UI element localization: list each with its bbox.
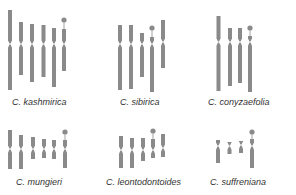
karyotype-mungieri [8, 129, 68, 169]
chromosome [129, 25, 133, 89]
species-label-kashmirica: C. kashmirica [12, 97, 67, 107]
species-label-sibirica: C. sibirica [120, 97, 160, 107]
satellite-icon [247, 25, 252, 30]
chromosome [161, 20, 165, 68]
chromosome [30, 24, 34, 82]
species-label-conyzaefolia: C. conyzaefolia [208, 97, 270, 107]
chromosome [8, 10, 12, 90]
chromosome [149, 25, 154, 92]
chromosome [52, 140, 56, 159]
chromosome [141, 138, 145, 161]
chromosome [19, 135, 23, 169]
species-label-mungieri: C. mungieri [16, 177, 62, 187]
chromosome [216, 140, 220, 163]
karyotype-kashmirica [8, 10, 67, 90]
satellite-icon [249, 129, 254, 134]
chromosome [42, 25, 46, 77]
chromosome [119, 136, 123, 168]
karyotype-leontodontoides [119, 128, 165, 168]
chromosome [42, 139, 46, 158]
chromosome [61, 17, 66, 71]
chromosome [62, 129, 67, 168]
chromosome [52, 28, 56, 87]
chromosome [19, 22, 23, 75]
chromosome [217, 16, 221, 91]
chromosome [238, 28, 242, 83]
chromosome [130, 138, 134, 168]
chromosome [31, 137, 35, 159]
satellite-icon [150, 128, 155, 133]
chromosome [249, 129, 254, 168]
karyotype-figure: C. kashmirica C. sibirica C. conyzaefoli… [0, 0, 296, 195]
chromosome [161, 134, 165, 157]
chromosome [150, 128, 155, 158]
chromosome [140, 33, 144, 77]
chromosome [118, 25, 122, 90]
karyotype-conyzaefolia [217, 16, 253, 92]
species-label-suffreniana: C. suffreniana [210, 177, 266, 187]
satellite-icon [62, 129, 67, 134]
karyotype-suffreniana [216, 129, 255, 168]
chromosome [239, 141, 243, 153]
species-label-leontodontoides: C. leontodontoides [106, 177, 181, 187]
chromosome [228, 142, 232, 154]
chromosome [247, 25, 252, 92]
satellite-icon [61, 17, 66, 22]
karyotype-sibirica [118, 20, 165, 92]
chromosome [228, 28, 232, 86]
chromosome [8, 130, 12, 169]
satellite-icon [149, 25, 154, 30]
